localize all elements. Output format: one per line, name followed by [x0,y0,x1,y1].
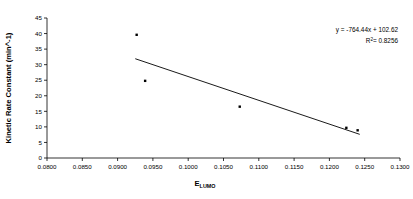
x-tick-label: 0.1000 [179,163,198,170]
x-axis-title: ELUMO [195,179,216,189]
x-tick-label: 0.1200 [320,163,339,170]
x-tick-label: 0.1150 [285,163,304,170]
chart-container: 051015202530354045 0.08000.08500.09000.0… [0,0,413,199]
y-tick-label: 5 [39,139,43,146]
data-point-marker [239,105,241,107]
y-tick-label: 20 [35,92,42,99]
data-point-marker [345,127,347,129]
y-tick-label: 45 [35,14,42,21]
x-axis-title-subscript: LUMO [200,183,216,189]
x-tick-label: 0.1250 [355,163,374,170]
x-tick-label: 0.1050 [214,163,233,170]
data-point-marker [135,34,137,36]
data-points [135,34,358,132]
r-squared-value: = 0.8256 [373,37,398,44]
x-tick-label: 0.0950 [143,163,162,170]
x-tick-label: 0.1300 [391,163,410,170]
x-tick-label: 0.1100 [250,163,269,170]
x-tick-label: 0.0800 [38,163,57,170]
r-squared-annotation: R2= 0.8256 [366,37,399,44]
trendline-segment [135,59,360,135]
y-tick-label: 30 [35,61,42,68]
scatter-plot: 051015202530354045 0.08000.08500.09000.0… [0,0,413,199]
y-tick-label: 15 [35,108,42,115]
y-tick-label: 25 [35,76,42,83]
y-axis-ticks: 051015202530354045 [35,14,47,161]
y-tick-label: 0 [39,154,43,161]
x-axis-ticks: 0.08000.08500.09000.09500.10000.10500.11… [38,158,410,170]
x-tick-label: 0.0850 [73,163,92,170]
y-axis-title: Kinetic Rate Constant (min^-1) [4,32,13,143]
y-tick-label: 35 [35,45,42,52]
x-tick-label: 0.0900 [108,163,127,170]
data-point-marker [356,129,358,131]
y-tick-label: 10 [35,123,42,130]
data-point-marker [144,80,146,82]
regression-equation: y = -764.44x + 102.62 [336,26,399,34]
trendline [135,59,360,135]
y-tick-label: 40 [35,30,42,37]
